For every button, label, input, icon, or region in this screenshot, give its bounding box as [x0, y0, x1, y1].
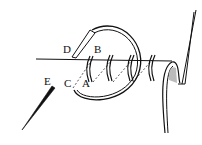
needle-bottom [22, 86, 55, 130]
label-b: B [94, 44, 101, 55]
label-e: E [44, 76, 51, 87]
stitch-drawing [0, 0, 202, 145]
label-d: D [63, 44, 71, 55]
label-a: A [82, 78, 90, 89]
stitch-diagram: D B E C A [0, 0, 202, 145]
label-c: C [64, 78, 71, 89]
needle-top [72, 30, 95, 58]
fabric-vertical [178, 10, 196, 84]
